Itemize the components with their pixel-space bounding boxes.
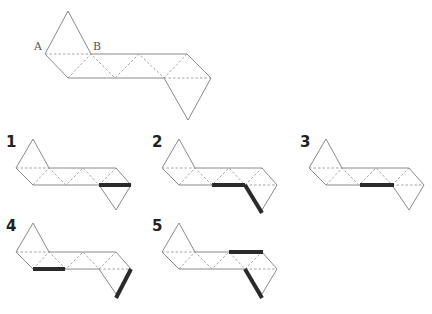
point-label-a: A: [33, 40, 43, 53]
option-5[interactable]: 5: [152, 217, 277, 298]
option-label: 1: [6, 133, 16, 151]
option-1[interactable]: 1: [6, 133, 131, 210]
point-label-b: B: [93, 40, 101, 53]
answer-options: 12345: [6, 133, 424, 298]
option-4[interactable]: 4: [6, 217, 131, 298]
highlighted-edge: [245, 185, 262, 213]
option-label: 3: [300, 133, 310, 151]
highlighted-edge: [116, 269, 131, 298]
option-label: 2: [152, 133, 162, 151]
option-label: 5: [152, 217, 162, 235]
main-net: [45, 11, 211, 120]
net-diagram: A B 12345: [0, 0, 432, 314]
option-3[interactable]: 3: [300, 133, 424, 210]
option-label: 4: [6, 217, 16, 235]
option-2[interactable]: 2: [152, 133, 277, 213]
highlighted-edge: [245, 269, 262, 298]
